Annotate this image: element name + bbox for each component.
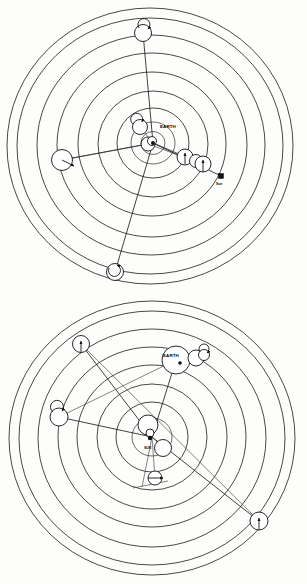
figure-geocentric-system: EARTH Sun: [0, 0, 307, 292]
planet-earth: [162, 346, 190, 374]
sun-body-dot: [148, 436, 152, 440]
heliocentric-center-label: SUN: [144, 446, 152, 450]
inner-epicycle-b: [146, 429, 154, 437]
planet-earth-moon: [199, 350, 210, 361]
earth-body-dot: [151, 141, 155, 145]
planet-mars: [50, 408, 68, 426]
planet-moon: [133, 120, 148, 135]
spoke-to-jupiter: [115, 143, 153, 272]
diagram-page: EARTH Sun: [0, 0, 307, 584]
planet-venus: [155, 440, 172, 457]
geocentric-planets: [52, 19, 212, 281]
geocentric-center-label: EARTH: [160, 124, 176, 129]
chord-inner-left: [62, 143, 153, 160]
geocentric-sun-label: Sun: [216, 182, 222, 186]
geocentric-canvas: EARTH Sun: [0, 0, 307, 292]
earth-body-dot: [178, 361, 182, 365]
heliocentric-canvas: EARTH SUN: [0, 292, 307, 584]
figure-heliocentric-system: EARTH SUN: [0, 292, 307, 584]
heliocentric-planets: [50, 336, 268, 531]
heliocentric-earth-label: EARTH: [163, 353, 179, 358]
chord-mars-earth: [59, 360, 176, 417]
sun-marker-square: [219, 174, 224, 179]
